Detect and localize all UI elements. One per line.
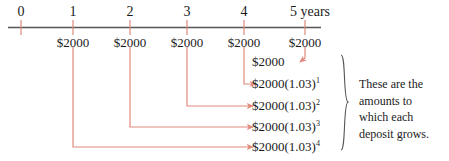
timeline-figure: 0 1 2 3 4 5 years $2000 $2000 $2000 $200… (0, 0, 449, 161)
deposit-label-year5: $2000 (289, 36, 322, 49)
grouping-brace (341, 55, 348, 150)
tick-label-5-years: 5 years (290, 5, 330, 19)
growth-row-4-exponent: 4 (316, 139, 320, 148)
growth-row-3-exponent: 3 (316, 119, 320, 128)
deposit-label-year4: $2000 (228, 36, 261, 49)
tick-label-3: 3 (184, 5, 191, 19)
deposit-label-year3: $2000 (171, 36, 204, 49)
growth-row-1: $2000(1.03)1 (252, 77, 320, 90)
tick-label-0: 0 (18, 5, 25, 19)
connector-year3 (187, 47, 253, 106)
growth-row-4-base: $2000 (252, 139, 285, 154)
growth-row-3-factor: (1.03) (285, 119, 316, 134)
connector-year2 (130, 47, 253, 127)
growth-row-1-exponent: 1 (316, 76, 320, 85)
tick-label-2: 2 (127, 5, 134, 19)
tick-label-1: 1 (70, 5, 77, 19)
growth-row-2-factor: (1.03) (285, 98, 316, 113)
growth-row-2-exponent: 2 (316, 98, 320, 107)
growth-row-3: $2000(1.03)3 (252, 120, 320, 133)
growth-row-0-base: $2000 (252, 54, 285, 69)
growth-row-2: $2000(1.03)2 (252, 99, 320, 112)
growth-row-1-base: $2000 (252, 76, 285, 91)
deposit-label-year2: $2000 (114, 36, 147, 49)
growth-row-2-base: $2000 (252, 98, 285, 113)
note-line-2: which each (359, 109, 449, 126)
growth-row-0: $2000 (252, 55, 285, 68)
explanatory-note: These are the amounts to which each depo… (359, 76, 449, 142)
note-line-3: deposit grows. (359, 126, 449, 143)
growth-row-4-factor: (1.03) (285, 139, 316, 154)
tick-label-4: 4 (241, 5, 248, 19)
growth-row-3-base: $2000 (252, 119, 285, 134)
connector-year1 (73, 47, 253, 147)
deposit-label-year1: $2000 (57, 36, 90, 49)
growth-row-1-factor: (1.03) (285, 76, 316, 91)
growth-row-4: $2000(1.03)4 (252, 140, 320, 153)
note-line-0: These are the (359, 76, 449, 93)
note-line-1: amounts to (359, 93, 449, 110)
